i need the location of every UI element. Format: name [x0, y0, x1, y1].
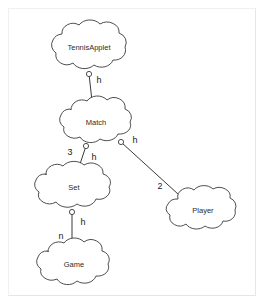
node-set[interactable]: Set [35, 161, 111, 207]
node-tennisapplet[interactable]: TennisApplet [52, 20, 127, 69]
edge-label-h-match-set: h [91, 152, 96, 162]
node-label-tennisapplet: TennisApplet [68, 43, 112, 52]
node-game[interactable]: Game [37, 238, 110, 285]
socket-circle-match-player[interactable] [118, 139, 123, 144]
node-label-set: Set [68, 183, 80, 192]
node-label-game: Game [64, 260, 84, 269]
socket-circle-tennisapplet-match[interactable] [86, 71, 91, 76]
node-label-player: Player [192, 206, 214, 215]
cloud-class-diagram: TennisApplet Match Set Game Player [0, 0, 265, 305]
edge-label-h-set-game: h [80, 217, 85, 227]
edge-label-multiplicity-2: 2 [157, 181, 162, 191]
socket-circle-match-set[interactable] [83, 143, 88, 148]
diagram-canvas: TennisApplet Match Set Game Player [0, 0, 265, 305]
node-label-match: Match [86, 118, 106, 127]
node-match[interactable]: Match [60, 96, 132, 143]
socket-circle-set-game[interactable] [69, 209, 74, 214]
edge-label-multiplicity-n: n [58, 231, 63, 241]
edge-match-player[interactable] [122, 143, 178, 194]
edge-label-multiplicity-3: 3 [67, 147, 72, 157]
edge-label-h-tennisapplet-match: h [96, 75, 101, 85]
edge-label-h-match-player: h [132, 135, 137, 145]
